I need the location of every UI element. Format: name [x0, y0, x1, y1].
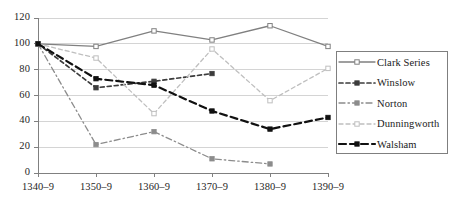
legend-item-clark-series[interactable]: Clark Series	[337, 52, 449, 72]
legend-swatch-winslow	[337, 75, 377, 91]
data-point-walsham	[36, 42, 40, 46]
data-point-dunningworth	[94, 56, 98, 60]
legend-item-walsham[interactable]: Walsham	[337, 134, 449, 154]
data-point-dunningworth	[152, 111, 156, 115]
data-point-walsham	[210, 109, 214, 113]
chart-container: 020406080100120 1340–91350–91360–91370–9…	[0, 0, 452, 209]
legend-label-winslow: Winslow	[377, 77, 415, 88]
data-point-winslow	[210, 71, 214, 75]
legend-label-walsham: Walsham	[377, 139, 417, 150]
y-tick-label: 40	[4, 114, 30, 125]
data-point-norton	[152, 129, 156, 133]
x-tick-label: 1350–9	[68, 181, 124, 192]
data-point-clark-series	[152, 29, 156, 33]
legend-label-norton: Norton	[377, 98, 407, 109]
data-point-clark-series	[268, 24, 272, 28]
series-line-clark-series	[38, 26, 328, 47]
series-line-walsham	[38, 44, 328, 129]
legend-item-winslow[interactable]: Winslow	[337, 73, 449, 93]
legend-item-dunningworth[interactable]: Dunningworth	[337, 114, 449, 134]
data-point-dunningworth	[210, 47, 214, 51]
data-point-dunningworth	[355, 122, 359, 126]
data-point-clark-series	[326, 44, 330, 48]
x-tick-marks	[38, 173, 328, 177]
y-tick-label: 100	[4, 37, 30, 48]
data-point-walsham	[268, 127, 272, 131]
data-point-walsham	[326, 115, 330, 119]
gridlines	[38, 18, 328, 173]
series-line-dunningworth	[38, 44, 328, 114]
data-series-layer	[36, 24, 330, 167]
y-tick-label: 80	[4, 63, 30, 74]
data-point-dunningworth	[326, 66, 330, 70]
y-tick-label: 120	[4, 11, 30, 22]
series-line-norton	[38, 44, 270, 164]
x-tick-label: 1340–9	[10, 181, 66, 192]
x-tick-label: 1370–9	[184, 181, 240, 192]
series-dunningworth	[36, 42, 330, 116]
data-point-winslow	[94, 86, 98, 90]
y-tick-label: 0	[4, 166, 30, 177]
legend-label-clark-series: Clark Series	[377, 57, 430, 68]
legend-item-norton[interactable]: Norton	[337, 93, 449, 113]
data-point-clark-series	[355, 60, 359, 64]
data-point-walsham	[152, 83, 156, 87]
data-point-walsham	[94, 77, 98, 81]
data-point-walsham	[355, 142, 359, 146]
legend-swatch-norton	[337, 95, 377, 111]
chart-legend: Clark SeriesWinslowNortonDunningworthWal…	[336, 51, 448, 154]
data-point-norton	[268, 162, 272, 166]
series-clark-series	[36, 24, 330, 49]
data-point-dunningworth	[268, 98, 272, 102]
x-tick-label: 1380–9	[242, 181, 298, 192]
data-point-winslow	[355, 80, 359, 84]
series-line-winslow	[38, 44, 212, 88]
legend-label-dunningworth: Dunningworth	[377, 118, 439, 129]
data-point-norton	[210, 157, 214, 161]
data-point-clark-series	[94, 44, 98, 48]
data-point-clark-series	[210, 38, 214, 42]
legend-swatch-clark-series	[337, 54, 377, 70]
x-tick-label: 1360–9	[126, 181, 182, 192]
y-tick-label: 20	[4, 140, 30, 151]
legend-swatch-dunningworth	[337, 116, 377, 132]
data-point-norton	[355, 101, 359, 105]
series-winslow	[36, 42, 214, 90]
y-tick-label: 60	[4, 89, 30, 100]
x-tick-label: 1390–9	[300, 181, 356, 192]
data-point-norton	[94, 142, 98, 146]
legend-swatch-walsham	[337, 136, 377, 152]
